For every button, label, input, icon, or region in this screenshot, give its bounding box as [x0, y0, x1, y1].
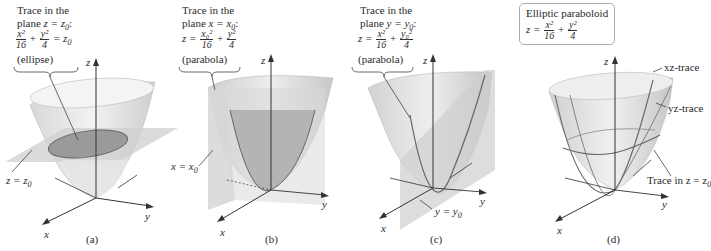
- shape-label-b: (parabola): [182, 53, 227, 65]
- panel-b: Trace in the plane x = x0: z = x₀²16 + y…: [175, 0, 350, 251]
- equation-c: z = x²16 + y₀²4: [358, 29, 414, 50]
- axis-x-label: x: [220, 226, 225, 238]
- axis-z-label: z: [423, 54, 427, 66]
- shape-label-c: (parabola): [358, 53, 403, 65]
- caption-c: (c): [430, 233, 442, 245]
- axis-y-label: y: [480, 195, 485, 207]
- axis-z-label: z: [86, 56, 90, 68]
- caption-a: (a): [86, 233, 98, 245]
- plane-label-c: y = y0: [435, 205, 462, 222]
- trace-note-b-line1: Trace in the: [182, 4, 234, 16]
- panel-d: Elliptic paraboloid z = x²16 + y²4 z x y…: [525, 0, 710, 251]
- axis-y-label: y: [145, 210, 150, 222]
- plane-label-a: z = z0: [6, 174, 31, 191]
- axis-z-label: z: [261, 54, 265, 66]
- axis-y-label: y: [662, 198, 667, 210]
- xz-trace-label: xz-trace: [664, 61, 699, 73]
- plane-label-b: x = x0: [171, 160, 198, 177]
- axis-y-label: y: [322, 198, 327, 210]
- yz-trace-label: yz-trace: [668, 102, 703, 114]
- axis-x-label: x: [381, 222, 386, 234]
- equation-box-d: Elliptic paraboloid z = x²16 + y²4: [519, 3, 615, 45]
- equation-a: x²16 + y²4 = z0: [15, 29, 71, 50]
- trace-note-c-line1: Trace in the: [360, 4, 412, 16]
- trace-note-a-line1: Trace in the: [17, 4, 69, 16]
- box-title: Elliptic paraboloid: [526, 7, 608, 20]
- axis-x-label: x: [557, 224, 562, 236]
- panel-a: Trace in the plane z = z0: x²16 + y²4 = …: [0, 0, 175, 251]
- axis-z-label: z: [604, 55, 608, 67]
- equation-b: z = x₀²16 + y²4: [182, 29, 237, 50]
- panel-c: Trace in the plane y = y0: z = x²16 + y₀…: [350, 0, 525, 251]
- axis-x-label: x: [44, 228, 49, 240]
- shape-label-a: (ellipse): [17, 53, 53, 65]
- caption-b: (b): [265, 233, 278, 245]
- z0-trace-label: Trace in z = z0: [647, 174, 711, 191]
- caption-d: (d): [607, 233, 620, 245]
